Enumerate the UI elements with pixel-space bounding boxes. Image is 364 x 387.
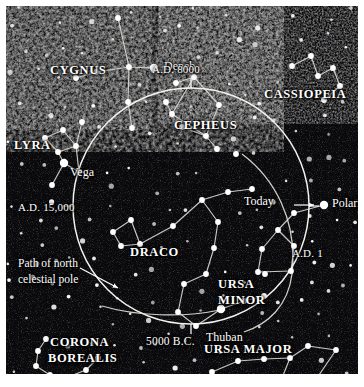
field-star [341,284,345,288]
field-star [148,131,152,135]
field-star [342,159,346,163]
field-star [190,105,193,108]
star [199,197,205,203]
label-draco: DRACO [130,246,179,259]
field-star [353,220,357,224]
star [216,102,222,108]
field-star [45,53,49,57]
label-path-line1: Path of north [18,257,78,270]
field-star [40,243,44,247]
star [110,229,116,235]
field-star [7,263,10,266]
star [261,356,267,362]
field-star [285,180,288,183]
field-star [195,172,198,175]
field-star [345,46,348,49]
field-star [7,141,10,144]
field-star [20,162,24,166]
field-star [192,7,195,10]
label-cepheus: CEPHEUS [174,119,237,132]
label-today: Today [244,195,274,207]
field-star [88,218,92,222]
field-star [260,311,264,315]
field-star [330,263,335,268]
field-star [54,226,58,230]
field-star [91,104,95,108]
field-star [259,225,263,229]
field-star [109,184,114,189]
field-star [323,114,327,118]
star [225,189,231,195]
label-vega: Vega [70,166,94,178]
star [60,127,66,133]
field-star [312,261,316,265]
star [255,269,261,275]
field-star [224,271,227,274]
star [215,219,221,225]
field-star [215,51,219,55]
field-star [10,295,14,299]
field-star [295,130,298,133]
field-star [253,116,257,120]
sky-canvas: CYGNUS LYRA CEPHEUS CASSIOPEIA DRACO URS… [6,6,358,374]
star [128,217,134,223]
field-star [291,14,295,18]
field-star [330,18,333,21]
field-star [327,289,331,293]
label-cygnus: CYGNUS [50,64,106,77]
star [289,63,295,69]
field-star [180,324,185,329]
field-star [24,50,28,54]
field-star [291,231,294,234]
star [262,271,268,277]
field-star [317,313,320,316]
star [308,53,314,59]
field-star [197,55,201,59]
field-star [146,318,151,323]
field-star [199,289,204,294]
field-star [81,52,84,55]
field-star [309,179,313,183]
field-star [349,264,352,267]
field-star [39,219,43,223]
star [175,309,181,315]
field-star [109,205,112,208]
field-star [256,209,259,212]
field-star [311,240,314,243]
star [33,363,39,369]
label-cassiopeia: CASSIOPEIA [264,88,346,101]
label-epoch-ad-8000: A.D. 8000 [152,64,200,75]
field-star [176,142,179,145]
field-star [152,222,156,226]
field-star [252,151,256,155]
star [79,119,85,125]
star [118,243,124,249]
field-star [169,209,172,212]
field-star [300,298,304,302]
field-star [17,6,20,9]
star [43,336,49,342]
field-star [246,244,249,247]
field-star [258,326,261,329]
field-star [255,25,260,30]
star [315,73,321,79]
field-star [176,172,180,176]
field-star [310,281,314,285]
field-star [291,336,294,339]
field-star [129,312,132,315]
field-star [42,163,46,167]
field-star [155,191,159,195]
star [259,246,265,252]
field-star [177,24,181,28]
field-star [349,6,353,10]
field-star [149,267,154,272]
field-star [134,273,138,277]
field-star [145,100,148,103]
star [305,343,311,349]
label-ursa-minor-line1: URSA [218,278,254,291]
field-star [13,371,16,374]
field-star [173,365,178,370]
field-star [112,38,115,41]
field-star [244,94,247,97]
star-chart-figure: CYGNUS LYRA CEPHEUS CASSIOPEIA DRACO URS… [0,0,364,387]
